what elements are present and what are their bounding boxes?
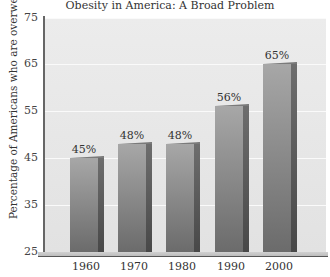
chart-title: Obesity in America: A Broad Problem: [0, 0, 330, 12]
gridline: [44, 18, 326, 19]
y-tick-label: 55: [14, 104, 38, 117]
y-axis-label: Percentage of Americans who are overweig…: [7, 49, 19, 219]
y-tick-label: 45: [14, 151, 38, 164]
x-tick-label: 1980: [162, 260, 202, 273]
value-label: 48%: [112, 129, 152, 142]
value-label: 45%: [64, 143, 104, 156]
y-axis-line: [43, 16, 45, 254]
x-tick-label: 1990: [211, 260, 251, 273]
y-tick-label: 75: [14, 11, 38, 24]
y-tick-label: 25: [14, 245, 38, 258]
value-label: 48%: [160, 129, 200, 142]
y-tick-label: 65: [14, 57, 38, 70]
x-tick-label: 1970: [114, 260, 154, 273]
x-tick-label: 2000: [259, 260, 299, 273]
x-axis-floor: [38, 252, 328, 257]
x-tick-label: 1960: [66, 260, 106, 273]
y-tick-label: 35: [14, 198, 38, 211]
value-label: 65%: [257, 49, 297, 62]
value-label: 56%: [209, 91, 249, 104]
